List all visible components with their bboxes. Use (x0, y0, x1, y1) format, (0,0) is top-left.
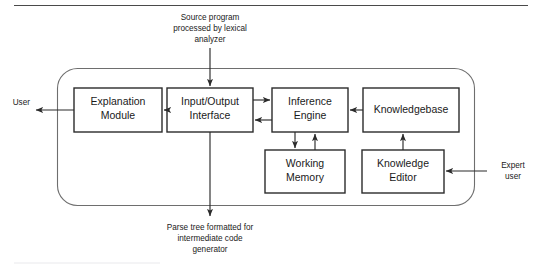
top-annotation-line-1: Source program (181, 13, 240, 22)
bottom-annotation-line-3: generator (192, 245, 227, 254)
node-knowledge-editor-line-2: Editor (389, 171, 417, 183)
node-knowledge-editor-line-1: Knowledge (377, 157, 429, 169)
top-annotation-line-3: analyzer (195, 35, 226, 44)
diagram-canvas: Explanation Module Input/Output Interfac… (0, 0, 536, 270)
node-explanation-module-line-1: Explanation (91, 95, 146, 107)
bottom-annotation-line-1: Parse tree formatted for (167, 223, 254, 232)
node-inference-engine-line-2: Engine (294, 109, 327, 121)
node-input-output-interface-line-1: Input/Output (181, 95, 239, 107)
node-inference-engine-line-1: Inference (288, 95, 332, 107)
node-knowledgebase-line-1: Knowledgebase (374, 103, 449, 115)
bottom-annotation-line-2: intermediate code (177, 234, 243, 243)
expert-system-diagram: Explanation Module Input/Output Interfac… (0, 0, 536, 270)
top-annotation-line-2: processed by lexical (173, 24, 247, 33)
label-expert-user-line-2: user (505, 172, 521, 181)
node-explanation-module-line-2: Module (101, 109, 136, 121)
label-expert-user-line-1: Expert (501, 161, 525, 170)
label-user: User (13, 98, 31, 107)
node-working-memory-line-1: Working (286, 157, 324, 169)
node-working-memory-line-2: Memory (286, 171, 325, 183)
node-input-output-interface-line-2: Interface (190, 109, 231, 121)
